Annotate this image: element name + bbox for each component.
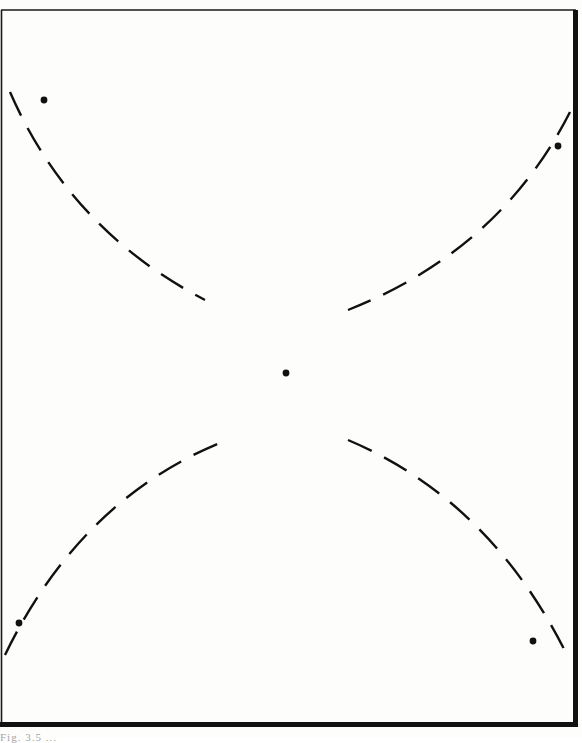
upper-right-point xyxy=(555,143,562,150)
center-point xyxy=(283,370,290,377)
figure-caption: Fig. 3.5 ... xyxy=(0,731,57,743)
lower-left-point xyxy=(16,620,23,627)
upper-left-point xyxy=(41,97,48,104)
lower-right-point xyxy=(530,638,537,645)
